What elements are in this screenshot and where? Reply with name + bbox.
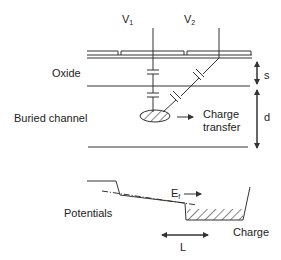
label-d: d	[264, 111, 270, 123]
label-v2: V2	[184, 13, 195, 29]
v1-wire	[147, 28, 159, 112]
label-potentials: Potentials	[64, 207, 112, 219]
label-charge: Charge	[233, 226, 269, 238]
ef-subscript: f	[178, 193, 180, 200]
label-ef: Ef	[171, 187, 180, 203]
label-s: s	[264, 69, 270, 81]
v1-subscript: 1	[129, 19, 133, 26]
charge-packet	[140, 110, 170, 122]
v2-wire	[163, 28, 219, 112]
charge-well-fill	[187, 209, 243, 220]
label-charge-transfer-2: transfer	[203, 121, 240, 133]
fermi-dashed-line	[102, 191, 197, 205]
label-buried-channel: Buried channel	[14, 112, 87, 124]
label-l: L	[180, 241, 186, 253]
gate-electrodes	[87, 51, 252, 58]
label-charge-transfer-1: Charge	[203, 108, 239, 120]
label-v1: V1	[122, 13, 133, 29]
label-oxide: Oxide	[52, 67, 81, 79]
v2-subscript: 2	[191, 19, 195, 26]
